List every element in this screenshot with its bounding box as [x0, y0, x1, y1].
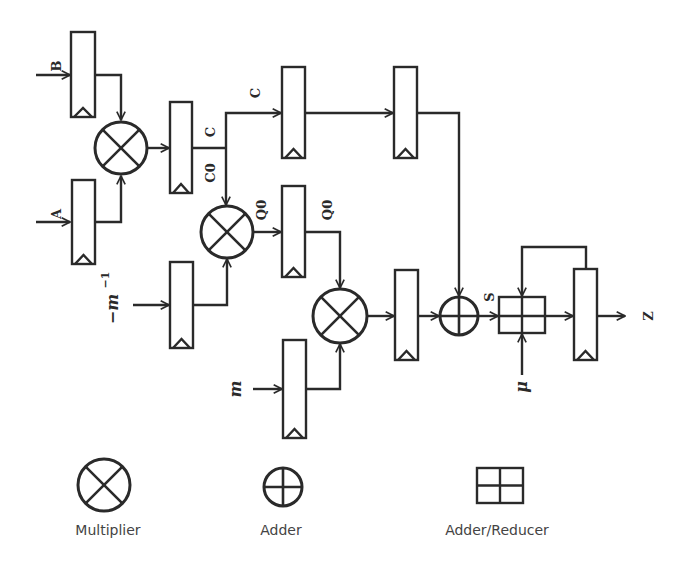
registers [71, 32, 597, 438]
label-inverse-exponent: −1 [99, 272, 112, 289]
wire-regm-mult3 [306, 344, 340, 389]
adder-reducer [499, 297, 545, 333]
register-b [71, 32, 95, 117]
legend: Multiplier Adder Adder/Reducer [75, 459, 549, 538]
register-a [72, 180, 95, 264]
legend-adder-label: Adder [260, 522, 302, 538]
legend-multiplier-label: Multiplier [75, 522, 141, 538]
label-m: m [226, 381, 245, 398]
multiplier-2 [201, 206, 253, 258]
legend-adder-reducer: Adder/Reducer [445, 468, 549, 538]
legend-adder-reducer-label: Adder/Reducer [445, 522, 549, 538]
label-c-top: C [248, 88, 263, 98]
wire-rega-mult1 [95, 176, 121, 222]
label-q0-left: Q0 [254, 200, 269, 220]
wire-regb-mult1 [95, 75, 121, 120]
register-c [170, 102, 192, 193]
label-minus-m-inverse: −m −1 [99, 272, 122, 325]
wire-cdelay2-adder [417, 113, 459, 296]
register-output [574, 269, 597, 360]
label-c-junction: C [203, 127, 218, 137]
wire-regminv-mult2 [193, 259, 227, 305]
label-minus-m: −m [103, 294, 122, 324]
register-c-delay-1 [282, 67, 305, 158]
legend-adder: Adder [260, 468, 302, 538]
label-q0-right: Q0 [320, 200, 335, 220]
label-c0: C0 [203, 163, 218, 182]
label-z: Z [641, 311, 656, 321]
register-product [395, 270, 418, 360]
multiplier-3 [313, 289, 367, 343]
label-b: B [49, 61, 64, 72]
wire-c-top-branch [226, 113, 281, 148]
register-minv [170, 262, 193, 348]
label-s: S [482, 292, 497, 301]
label-mu: μ [512, 381, 531, 393]
multiplier-1 [95, 122, 147, 174]
register-c-delay-2 [394, 67, 417, 158]
register-m [283, 340, 306, 438]
legend-multiplier: Multiplier [75, 459, 141, 538]
datapath-diagram: B A C C0 C Q0 Q0 S Z −m −1 m μ Multiplie… [0, 0, 687, 567]
register-q0 [282, 186, 305, 277]
wire-regq0-mult3 [305, 232, 340, 288]
label-a: A [49, 208, 64, 220]
adder [440, 297, 478, 335]
signal-labels: B A C C0 C Q0 Q0 S Z −m −1 m μ [49, 61, 656, 398]
